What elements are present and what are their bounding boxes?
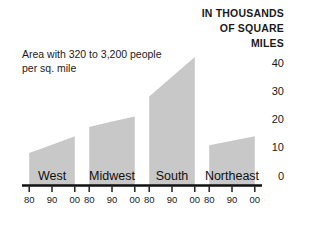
year-label-west-90: 90 — [47, 194, 58, 205]
annotation-line-1: Area with 320 to 3,200 people — [22, 48, 162, 60]
unit-title-line-1: IN THOUSANDS — [202, 7, 284, 19]
year-label-midwest-00: 00 — [130, 194, 141, 205]
year-label-northeast-00: 00 — [250, 194, 261, 205]
chart-unit-title: IN THOUSANDS OF SQUARE MILES — [202, 7, 284, 49]
region-label-northeast: Northeast — [205, 169, 260, 183]
year-label-northeast-90: 90 — [227, 194, 238, 205]
unit-title-line-2: OF SQUARE — [220, 22, 284, 34]
year-label-south-90: 90 — [167, 194, 178, 205]
x-axis-year-labels: 809000809000809000809000 — [24, 194, 260, 205]
year-label-west-80: 80 — [24, 194, 35, 205]
year-label-south-00: 00 — [190, 194, 201, 205]
y-tick-label-10: 10 — [272, 141, 284, 153]
y-tick-label-0: 0 — [278, 170, 284, 182]
area-series-south — [149, 57, 195, 185]
annotation-line-2: per sq. mile — [22, 62, 76, 74]
year-label-midwest-90: 90 — [107, 194, 118, 205]
year-label-northeast-80: 80 — [204, 194, 215, 205]
y-tick-label-40: 40 — [272, 57, 284, 69]
region-label-west: West — [38, 169, 67, 183]
year-label-midwest-80: 80 — [84, 194, 95, 205]
y-axis-tick-labels: 40 30 20 10 0 — [272, 57, 284, 182]
area-series-layer — [29, 57, 255, 185]
year-label-west-00: 00 — [70, 194, 81, 205]
area-chart: IN THOUSANDS OF SQUARE MILES 40 30 20 10… — [0, 0, 310, 227]
y-tick-label-20: 20 — [272, 113, 284, 125]
region-label-midwest: Midwest — [89, 169, 135, 183]
year-label-south-80: 80 — [144, 194, 155, 205]
y-tick-label-30: 30 — [272, 85, 284, 97]
region-label-south: South — [156, 169, 189, 183]
series-annotation: Area with 320 to 3,200 people per sq. mi… — [22, 48, 162, 74]
chart-container: IN THOUSANDS OF SQUARE MILES 40 30 20 10… — [0, 0, 310, 227]
unit-title-line-3: MILES — [251, 37, 284, 49]
x-axis-tick-marks — [29, 187, 255, 193]
